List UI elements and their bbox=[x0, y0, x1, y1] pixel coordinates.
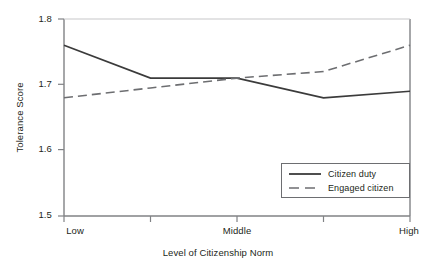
chart-figure: 1.8 1.7 1.6 1.5 Low Middle High Toleranc… bbox=[0, 0, 436, 272]
x-axis-title: Level of Citizenship Norm bbox=[0, 247, 436, 258]
x-tick-label-middle: Middle bbox=[207, 225, 267, 236]
legend-item-citizen-duty: Citizen duty bbox=[288, 167, 376, 181]
legend-swatch-solid bbox=[288, 169, 322, 179]
y-tick-label-1-8: 1.8 bbox=[12, 13, 52, 24]
series-line-engaged-citizen bbox=[64, 45, 410, 98]
x-tick-label-high: High bbox=[379, 225, 436, 236]
legend-item-engaged-citizen: Engaged citizen bbox=[288, 181, 394, 195]
data-series-group bbox=[64, 45, 410, 98]
x-tick-marks bbox=[64, 216, 410, 222]
x-tick-label-low: Low bbox=[45, 225, 105, 236]
y-tick-label-1-5: 1.5 bbox=[12, 209, 52, 220]
legend-label-citizen-duty: Citizen duty bbox=[328, 169, 376, 179]
chart-legend: Citizen duty Engaged citizen bbox=[281, 163, 410, 198]
series-line-citizen-duty bbox=[64, 45, 410, 98]
y-axis-title: Tolerance Score bbox=[14, 63, 25, 173]
legend-swatch-dashed bbox=[288, 183, 322, 193]
legend-label-engaged-citizen: Engaged citizen bbox=[328, 183, 394, 193]
y-tick-marks bbox=[58, 19, 64, 216]
